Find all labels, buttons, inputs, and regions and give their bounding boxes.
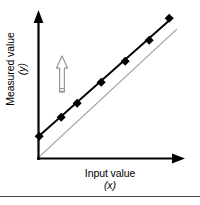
offset-arrow-icon — [57, 56, 68, 92]
data-point-marker — [165, 14, 174, 23]
bottom-divider — [0, 196, 200, 197]
reference-line-ideal — [39, 29, 177, 157]
y-axis-label-variable: (y) — [17, 63, 29, 75]
x-axis-arrowhead — [172, 154, 185, 164]
y-axis-label: Measured value (y) — [0, 9, 34, 129]
data-point-marker — [121, 57, 130, 66]
x-axis-label-variable: (x) — [55, 180, 165, 192]
data-point-marker — [145, 36, 154, 45]
x-axis-label: Input value (x) — [55, 168, 165, 192]
x-axis — [37, 154, 185, 164]
y-axis-arrowhead — [34, 10, 44, 23]
x-axis-label-title: Input value — [55, 168, 165, 180]
figure-container: Measured value (y) Input value (x) — [0, 0, 200, 205]
